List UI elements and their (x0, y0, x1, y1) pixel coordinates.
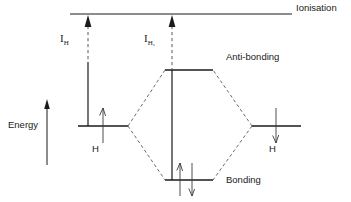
electron-spin-up-bonding-barb-a-icon (177, 163, 180, 171)
ionisation-arrow-atom-head-icon (85, 15, 92, 27)
diagram-canvas (0, 0, 351, 202)
ionisation-label: Ionisation (296, 3, 337, 13)
atom-label-left: H (92, 144, 99, 154)
energy-axis-label: Energy (8, 120, 38, 130)
bonding-label: Bonding (226, 175, 261, 185)
correlation-line-right-bonding (213, 126, 252, 180)
correlation-line-left-antibonding (128, 70, 165, 126)
electron-spin-up-left-barb-a-icon (100, 108, 103, 116)
energy-axis-arrowhead-icon (44, 99, 50, 109)
atom-label-right: H (269, 144, 276, 154)
ionisation-arrow-molecule-head-icon (169, 15, 176, 27)
ionisation-energy-atom-subscript: H (64, 39, 69, 47)
ionisation-energy-molecule-label: IH₂ (144, 33, 155, 44)
correlation-line-right-antibonding (213, 70, 252, 126)
electron-spin-down-right-barb-a-icon (273, 136, 276, 144)
anti-bonding-label: Anti-bonding (226, 52, 279, 62)
ionisation-energy-atom-label: IH (60, 33, 69, 44)
ionisation-energy-molecule-subscript: H₂ (148, 39, 156, 47)
mo-energy-level-diagram: Ionisation Anti-bonding Bonding Energy H… (0, 0, 351, 202)
correlation-line-left-bonding (128, 126, 165, 180)
electron-spin-down-bonding-barb-a-icon (189, 189, 192, 197)
